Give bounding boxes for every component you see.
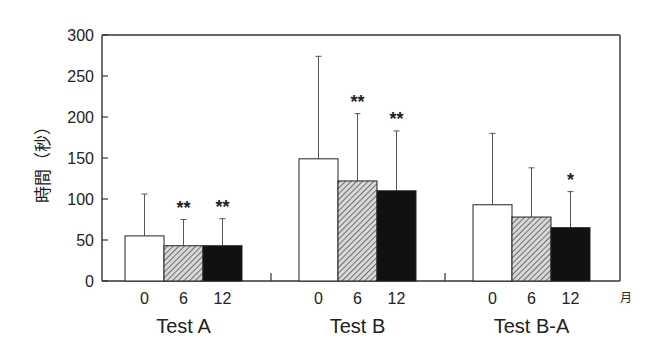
plot-area: 0501001502002503000**6**12Test A0**6**12… <box>67 27 620 337</box>
x-tick-label: 0 <box>140 290 149 307</box>
x-tick-label: 6 <box>179 290 188 307</box>
x-tick-label: 0 <box>314 290 323 307</box>
x-tick-label: 12 <box>214 290 232 307</box>
significance-marker: ** <box>215 197 229 217</box>
bar <box>338 181 377 281</box>
significance-marker: ** <box>389 109 403 129</box>
group-label: Test A <box>156 315 211 337</box>
bar <box>377 191 416 281</box>
bar <box>512 217 551 281</box>
y-tick-label: 150 <box>67 150 94 167</box>
bar <box>551 228 590 281</box>
y-tick-label: 0 <box>85 273 94 290</box>
y-tick-label: 250 <box>67 68 94 85</box>
x-tick-label: 6 <box>353 290 362 307</box>
chart: 0501001502002503000**6**12Test A0**6**12… <box>0 0 653 350</box>
bar <box>203 246 242 281</box>
bar <box>299 159 338 281</box>
bar <box>473 205 512 281</box>
significance-marker: ** <box>176 198 190 218</box>
group-label: Test B-A <box>494 315 570 337</box>
bar <box>125 236 164 281</box>
y-axis-label: 時間（秒） <box>33 118 53 203</box>
x-unit-label: 月 <box>620 291 632 305</box>
group-label: Test B <box>330 315 386 337</box>
y-tick-label: 100 <box>67 191 94 208</box>
significance-marker: ** <box>350 92 364 112</box>
significance-marker: * <box>567 170 574 190</box>
x-tick-label: 12 <box>388 290 406 307</box>
x-tick-label: 12 <box>562 290 580 307</box>
y-tick-label: 50 <box>76 232 94 249</box>
y-tick-label: 200 <box>67 109 94 126</box>
x-tick-label: 6 <box>527 290 536 307</box>
x-tick-label: 0 <box>488 290 497 307</box>
bar <box>164 246 203 281</box>
y-tick-label: 300 <box>67 27 94 44</box>
